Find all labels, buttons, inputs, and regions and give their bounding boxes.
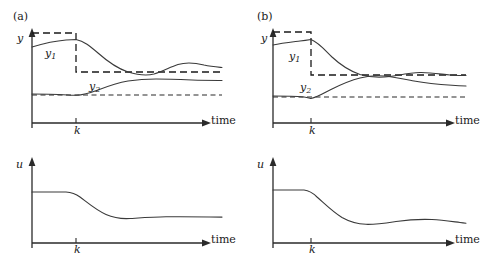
panel-a-top-setpoint-y1 bbox=[32, 33, 222, 72]
panel-b-top-x-axis-arrowhead bbox=[446, 120, 455, 127]
panel-a-top-tick-label-k: k bbox=[74, 124, 81, 137]
panel-a-bottom: u k time bbox=[0, 140, 244, 274]
panel-b-top-y-axis-label: y bbox=[261, 32, 267, 45]
panel-b-top-x-axis-label: time bbox=[455, 114, 480, 127]
panel-a-bottom-tick-label-k: k bbox=[74, 243, 81, 256]
panel-a-label: (a) bbox=[13, 10, 28, 23]
panel-b-top-plot bbox=[244, 0, 487, 140]
panel-b-top-curve-label-y2: y2 bbox=[300, 81, 311, 95]
panel-b-bottom-tick-label-k: k bbox=[309, 243, 316, 256]
panel-a-bottom-y-axis-arrowhead bbox=[29, 157, 36, 166]
panel-b-bottom-x-axis-label: time bbox=[455, 233, 480, 246]
panel-b-bottom-x-axis-arrowhead bbox=[446, 240, 455, 247]
panel-a-top-x-axis-label: time bbox=[211, 114, 236, 127]
panel-b-top-curve-label-y1: y1 bbox=[289, 50, 300, 64]
panel-a-top-curve-y1 bbox=[32, 40, 222, 76]
panel-a-bottom-x-axis-label: time bbox=[211, 233, 236, 246]
panel-b-bottom-curve-u bbox=[273, 190, 466, 224]
panel-b-bottom-y-axis-label: u bbox=[257, 158, 264, 171]
panel-b-bottom-plot bbox=[244, 140, 487, 274]
panel-a-bottom-plot bbox=[0, 140, 244, 274]
panel-a-top-x-axis-arrowhead bbox=[202, 120, 211, 127]
panel-a-top: (a) y y1 y2 k time bbox=[0, 0, 244, 140]
panel-b-top: (b) y y1 y2 k time bbox=[244, 0, 487, 140]
panel-a-top-curve-label-y1: y1 bbox=[45, 47, 56, 61]
panel-b-bottom: u k time bbox=[244, 140, 487, 274]
panel-b-top-curve-y1 bbox=[273, 40, 466, 78]
panel-a-bottom-y-axis-label: u bbox=[16, 158, 23, 171]
panel-b-top-setpoint-y1 bbox=[273, 32, 466, 75]
panel-b-bottom-y-axis-arrowhead bbox=[270, 157, 277, 166]
panel-a-bottom-x-axis-arrowhead bbox=[202, 240, 211, 247]
panel-b-top-tick-label-k: k bbox=[309, 124, 316, 137]
panel-a-top-curve-y2 bbox=[32, 79, 222, 95]
panel-a-top-curve-label-y2: y2 bbox=[89, 80, 100, 94]
panel-a-top-plot bbox=[0, 0, 244, 140]
panel-a-top-y-axis-label: y bbox=[17, 32, 23, 45]
panel-b-label: (b) bbox=[257, 10, 273, 23]
panel-a-bottom-curve-u bbox=[32, 192, 222, 219]
